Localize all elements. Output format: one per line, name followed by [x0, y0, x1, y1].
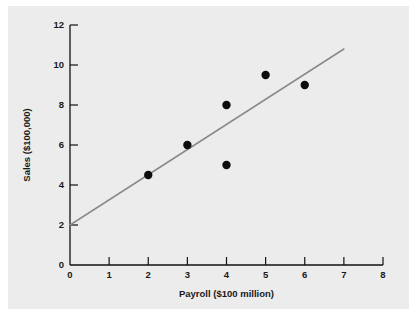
data-point	[144, 171, 152, 179]
y-tick-label: 4	[59, 179, 65, 190]
x-axis-title: Payroll ($100 million)	[179, 288, 274, 299]
x-tick-label: 6	[302, 269, 307, 280]
y-tick-label: 8	[59, 99, 64, 110]
x-tick-label: 5	[263, 269, 269, 280]
x-tick-label: 3	[185, 269, 190, 280]
data-point	[261, 71, 269, 79]
x-tick-label: 2	[146, 269, 151, 280]
y-tick-label: 6	[59, 139, 64, 150]
y-tick-label: 0	[59, 259, 64, 270]
y-tick-label: 12	[53, 19, 64, 30]
regression-trend-line	[70, 49, 344, 225]
y-tick-label: 10	[53, 59, 64, 70]
x-tick-label: 1	[106, 269, 112, 280]
x-tick-label: 8	[380, 269, 385, 280]
x-axis-ticks: 012345678	[67, 257, 385, 280]
data-point	[301, 81, 309, 89]
y-axis-ticks: 024681012	[53, 19, 78, 270]
data-point	[222, 161, 230, 169]
x-tick-label: 0	[67, 269, 72, 280]
x-tick-label: 4	[224, 269, 230, 280]
chart-page: 024681012 012345678 Payroll ($100 millio…	[0, 0, 417, 315]
y-axis-title: Sales ($100,000)	[21, 108, 32, 181]
data-point	[222, 101, 230, 109]
scatter-plot: 024681012 012345678 Payroll ($100 millio…	[0, 0, 417, 315]
x-tick-label: 7	[341, 269, 346, 280]
data-point	[183, 141, 191, 149]
y-tick-label: 2	[59, 219, 64, 230]
